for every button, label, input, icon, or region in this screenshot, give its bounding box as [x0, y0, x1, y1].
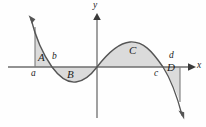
- region-label-c: C: [129, 45, 136, 56]
- point-label-b: b: [52, 52, 57, 62]
- y-axis-label: y: [93, 1, 97, 11]
- region-label-a: A: [38, 52, 45, 63]
- x-axis-arrow-icon: [188, 63, 196, 71]
- figure-container: A B C D a b c d y x: [0, 0, 206, 127]
- region-label-d: D: [167, 62, 175, 73]
- curve-arrow-end-icon: [178, 110, 184, 119]
- y-axis-arrow-icon: [93, 13, 101, 20]
- figure-svg: [0, 0, 206, 127]
- point-label-d: d: [169, 51, 174, 61]
- curve-arrow-start-icon: [29, 15, 36, 23]
- x-axis-label: x: [197, 61, 201, 71]
- region-label-b: B: [67, 69, 74, 80]
- point-label-a: a: [31, 69, 36, 79]
- point-label-c: c: [154, 69, 158, 79]
